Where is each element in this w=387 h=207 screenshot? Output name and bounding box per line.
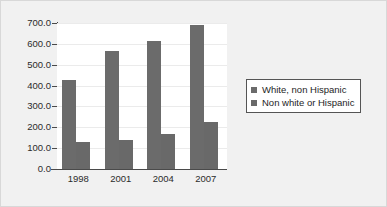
bar-1998-series-1[interactable]: [76, 142, 90, 169]
y-tick-label: 400.0: [3, 81, 51, 91]
y-tick-mark: [52, 65, 57, 66]
x-tick-label: 2007: [185, 173, 227, 184]
bar-chart-figure: 700.0600.0500.0400.0300.0200.0100.00.0 1…: [0, 0, 387, 207]
chart-legend: White, non HispanicNon white or Hispanic: [246, 79, 361, 113]
x-axis-line: [51, 169, 227, 170]
y-tick-label: 0.0: [3, 164, 51, 174]
y-tick-label: 300.0: [3, 102, 51, 112]
bar-group: [185, 23, 228, 169]
y-axis-tick-labels: 700.0600.0500.0400.0300.0200.0100.00.0: [1, 1, 51, 207]
y-tick-mark: [52, 148, 57, 149]
y-tick-mark: [52, 106, 57, 107]
legend-swatch-icon: [251, 100, 257, 106]
bar-group: [142, 23, 185, 169]
bar-2007-series-1[interactable]: [204, 122, 218, 169]
y-tick-label: 100.0: [3, 143, 51, 153]
plot-area: [57, 23, 227, 169]
y-tick-mark: [52, 127, 57, 128]
y-tick-label: 500.0: [3, 60, 51, 70]
bar-1998-series-0[interactable]: [62, 80, 76, 169]
bar-2001-series-1[interactable]: [119, 140, 133, 169]
bar-2001-series-0[interactable]: [105, 51, 119, 169]
legend-label: Non white or Hispanic: [262, 98, 354, 108]
y-tick-mark: [52, 44, 57, 45]
x-tick-label: 2004: [142, 173, 184, 184]
y-tick-label: 200.0: [3, 123, 51, 133]
bar-group: [100, 23, 143, 169]
x-tick-label: 2001: [100, 173, 142, 184]
bar-group: [57, 23, 100, 169]
legend-swatch-icon: [251, 87, 257, 93]
legend-label: White, non Hispanic: [262, 85, 346, 95]
legend-item[interactable]: Non white or Hispanic: [251, 96, 354, 109]
legend-item[interactable]: White, non Hispanic: [251, 83, 354, 96]
bar-2004-series-0[interactable]: [147, 41, 161, 169]
x-tick-label: 1998: [57, 173, 99, 184]
x-axis-tick-labels: 1998200120042007: [57, 173, 227, 187]
bar-2004-series-1[interactable]: [161, 134, 175, 169]
y-tick-label: 700.0: [3, 18, 51, 28]
y-tick-mark: [52, 86, 57, 87]
y-tick-label: 600.0: [3, 39, 51, 49]
y-tick-mark: [52, 169, 57, 170]
y-tick-mark: [52, 23, 57, 24]
bar-2007-series-0[interactable]: [190, 25, 204, 169]
